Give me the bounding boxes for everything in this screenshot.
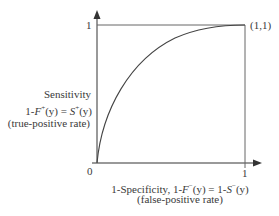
y-formula-text: 1-	[25, 105, 34, 117]
x-tick-1: 1	[242, 167, 248, 180]
y-formula-text: (y)	[79, 105, 92, 117]
x-axis-description: (false-positive rate)	[95, 193, 265, 206]
y-axis-description: (true-positive rate)	[0, 117, 90, 130]
y-axis-arrow-icon	[94, 10, 101, 19]
x-axis-arrow-icon	[253, 160, 262, 167]
corner-label: (1,1)	[250, 19, 271, 32]
y-tick-1: 1	[86, 19, 92, 32]
roc-curve	[97, 25, 245, 163]
y-axis-formula: 1-F+(y) = S+(y)	[0, 102, 92, 118]
y-axis-title: Sensitivity	[30, 88, 91, 101]
origin-label: 0	[87, 165, 93, 178]
y-formula-text: (y) =	[45, 105, 70, 117]
